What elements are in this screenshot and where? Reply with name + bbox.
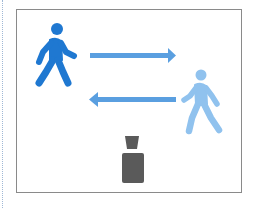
- walking-person-icon: [184, 70, 219, 132]
- diagram-canvas: [0, 0, 257, 208]
- device-icon: [122, 136, 144, 183]
- walking-person-icon: [39, 23, 74, 83]
- arrow-right-icon: [90, 48, 176, 63]
- arrow-left-icon: [89, 92, 176, 107]
- scene: [0, 0, 257, 208]
